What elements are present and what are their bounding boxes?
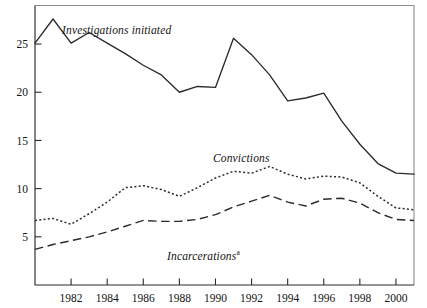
y-tick-label: 25 bbox=[17, 38, 29, 50]
data-series-group bbox=[35, 19, 414, 249]
x-tick-label: 1986 bbox=[132, 292, 155, 304]
x-tick-label: 1996 bbox=[312, 292, 335, 304]
x-tick-label: 1988 bbox=[168, 292, 191, 304]
x-tick-label: 1982 bbox=[60, 292, 83, 304]
series-line-convictions bbox=[35, 166, 414, 224]
series-label-investigations-text: Investigations initiated bbox=[62, 24, 171, 36]
y-tick-label: 20 bbox=[17, 86, 29, 98]
x-tick-label: 1994 bbox=[276, 292, 299, 304]
x-tick-label: 1992 bbox=[240, 292, 263, 304]
series-line-investigations bbox=[35, 19, 414, 174]
y-tick-label: 15 bbox=[17, 135, 29, 147]
plot-frame bbox=[35, 6, 414, 286]
plot-border bbox=[35, 6, 414, 286]
y-axis-tick-labels: 510152025 bbox=[17, 38, 29, 243]
series-label-incarcerations-text: Incarcerations bbox=[167, 250, 236, 262]
x-tick-label: 1998 bbox=[348, 292, 371, 304]
series-label-investigations: Investigations initiated bbox=[62, 24, 171, 36]
series-line-incarcerations bbox=[35, 195, 414, 249]
chart-figure: 510152025 198219841986198819901992199419… bbox=[0, 0, 427, 308]
series-label-incarcerations-footnote: a bbox=[236, 248, 239, 257]
series-label-convictions-text: Convictions bbox=[213, 152, 270, 164]
plot-axes bbox=[35, 6, 414, 286]
y-tick-label: 5 bbox=[22, 231, 28, 243]
x-axis-tick-labels: 1982198419861988199019921994199619982000 bbox=[60, 292, 408, 304]
y-tick-label: 10 bbox=[17, 183, 29, 195]
x-tick-label: 1984 bbox=[96, 292, 119, 304]
series-label-incarcerations: Incarcerationsa bbox=[167, 248, 240, 262]
x-tick-label: 1990 bbox=[204, 292, 227, 304]
x-tick-label: 2000 bbox=[384, 292, 407, 304]
series-label-convictions: Convictions bbox=[213, 152, 270, 164]
